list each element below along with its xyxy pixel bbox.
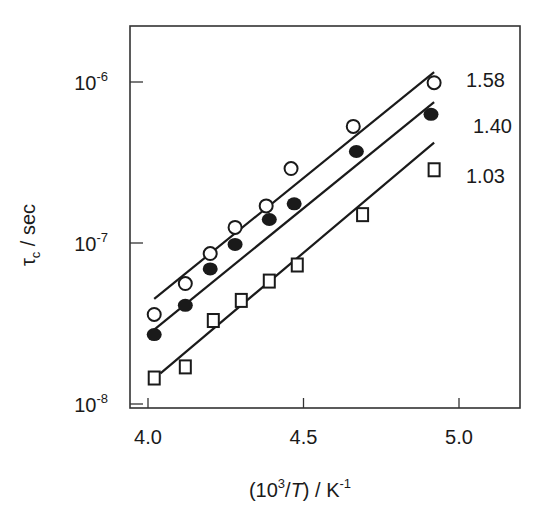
data-point [203,262,218,275]
y-axis-label: τc / sec [17,175,43,295]
data-point [148,308,161,321]
data-point [357,208,368,221]
data-point [429,163,440,176]
series-1-40 [147,102,439,341]
data-point [180,360,191,373]
data-point [236,294,247,307]
data-point [149,372,160,385]
data-point [179,277,192,290]
data-point [349,145,364,158]
data-point [424,108,439,121]
data-point [262,213,277,226]
chart-plot: 4.04.55.010-810-710-6(103/T) / K-11.581.… [0,0,546,526]
series-label: 1.03 [466,165,505,187]
data-point [260,199,273,212]
series-1-03 [149,143,440,385]
data-point [208,314,219,327]
y-tick-label: 10-8 [74,391,108,416]
data-point [147,328,162,341]
data-point [264,275,275,288]
data-point [292,259,303,272]
x-axis-label: (103/T) / K-1 [249,476,351,501]
data-point [347,120,360,133]
y-tick-label: 10-6 [74,69,108,94]
data-point [228,238,243,251]
x-tick-label: 4.5 [290,426,318,448]
series-label: 1.40 [473,115,512,137]
series-label: 1.58 [466,69,505,91]
x-tick-label: 5.0 [445,426,473,448]
data-point [229,221,242,234]
x-tick-label: 4.0 [134,426,162,448]
fit-line [154,102,434,329]
data-point [287,197,302,210]
data-point [285,162,298,175]
data-point [428,76,441,89]
data-point [204,247,217,260]
series-1-58 [148,72,441,321]
data-point [178,299,193,312]
y-tick-label: 10-7 [74,230,108,255]
